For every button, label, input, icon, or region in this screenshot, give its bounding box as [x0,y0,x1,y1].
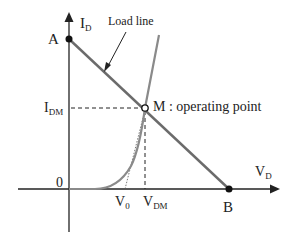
operating-point-label: M : operating point [153,100,262,114]
y-axis-arrow-icon [65,12,74,22]
point-a-label: A [48,32,59,47]
origin-label: 0 [56,176,63,190]
v0-label: V0 [115,195,130,211]
x-axis-arrow-icon [270,185,280,194]
x-axis-label: VD [255,165,272,181]
load-line-label: Load line [108,15,154,27]
idm-label: IDM [44,101,63,117]
point-m-marker [142,105,148,111]
y-axis-label: ID [80,16,92,33]
point-a-marker [66,36,73,43]
load-line [69,39,229,189]
load-line-pointer-arrow-icon [104,62,111,72]
load-line-pointer [108,32,126,66]
point-b-label: B [223,200,233,215]
point-b-marker [226,186,233,193]
vdm-label: VDM [143,195,168,211]
diagram-canvas: A ID Load line IDM M : operating point V… [0,0,289,244]
